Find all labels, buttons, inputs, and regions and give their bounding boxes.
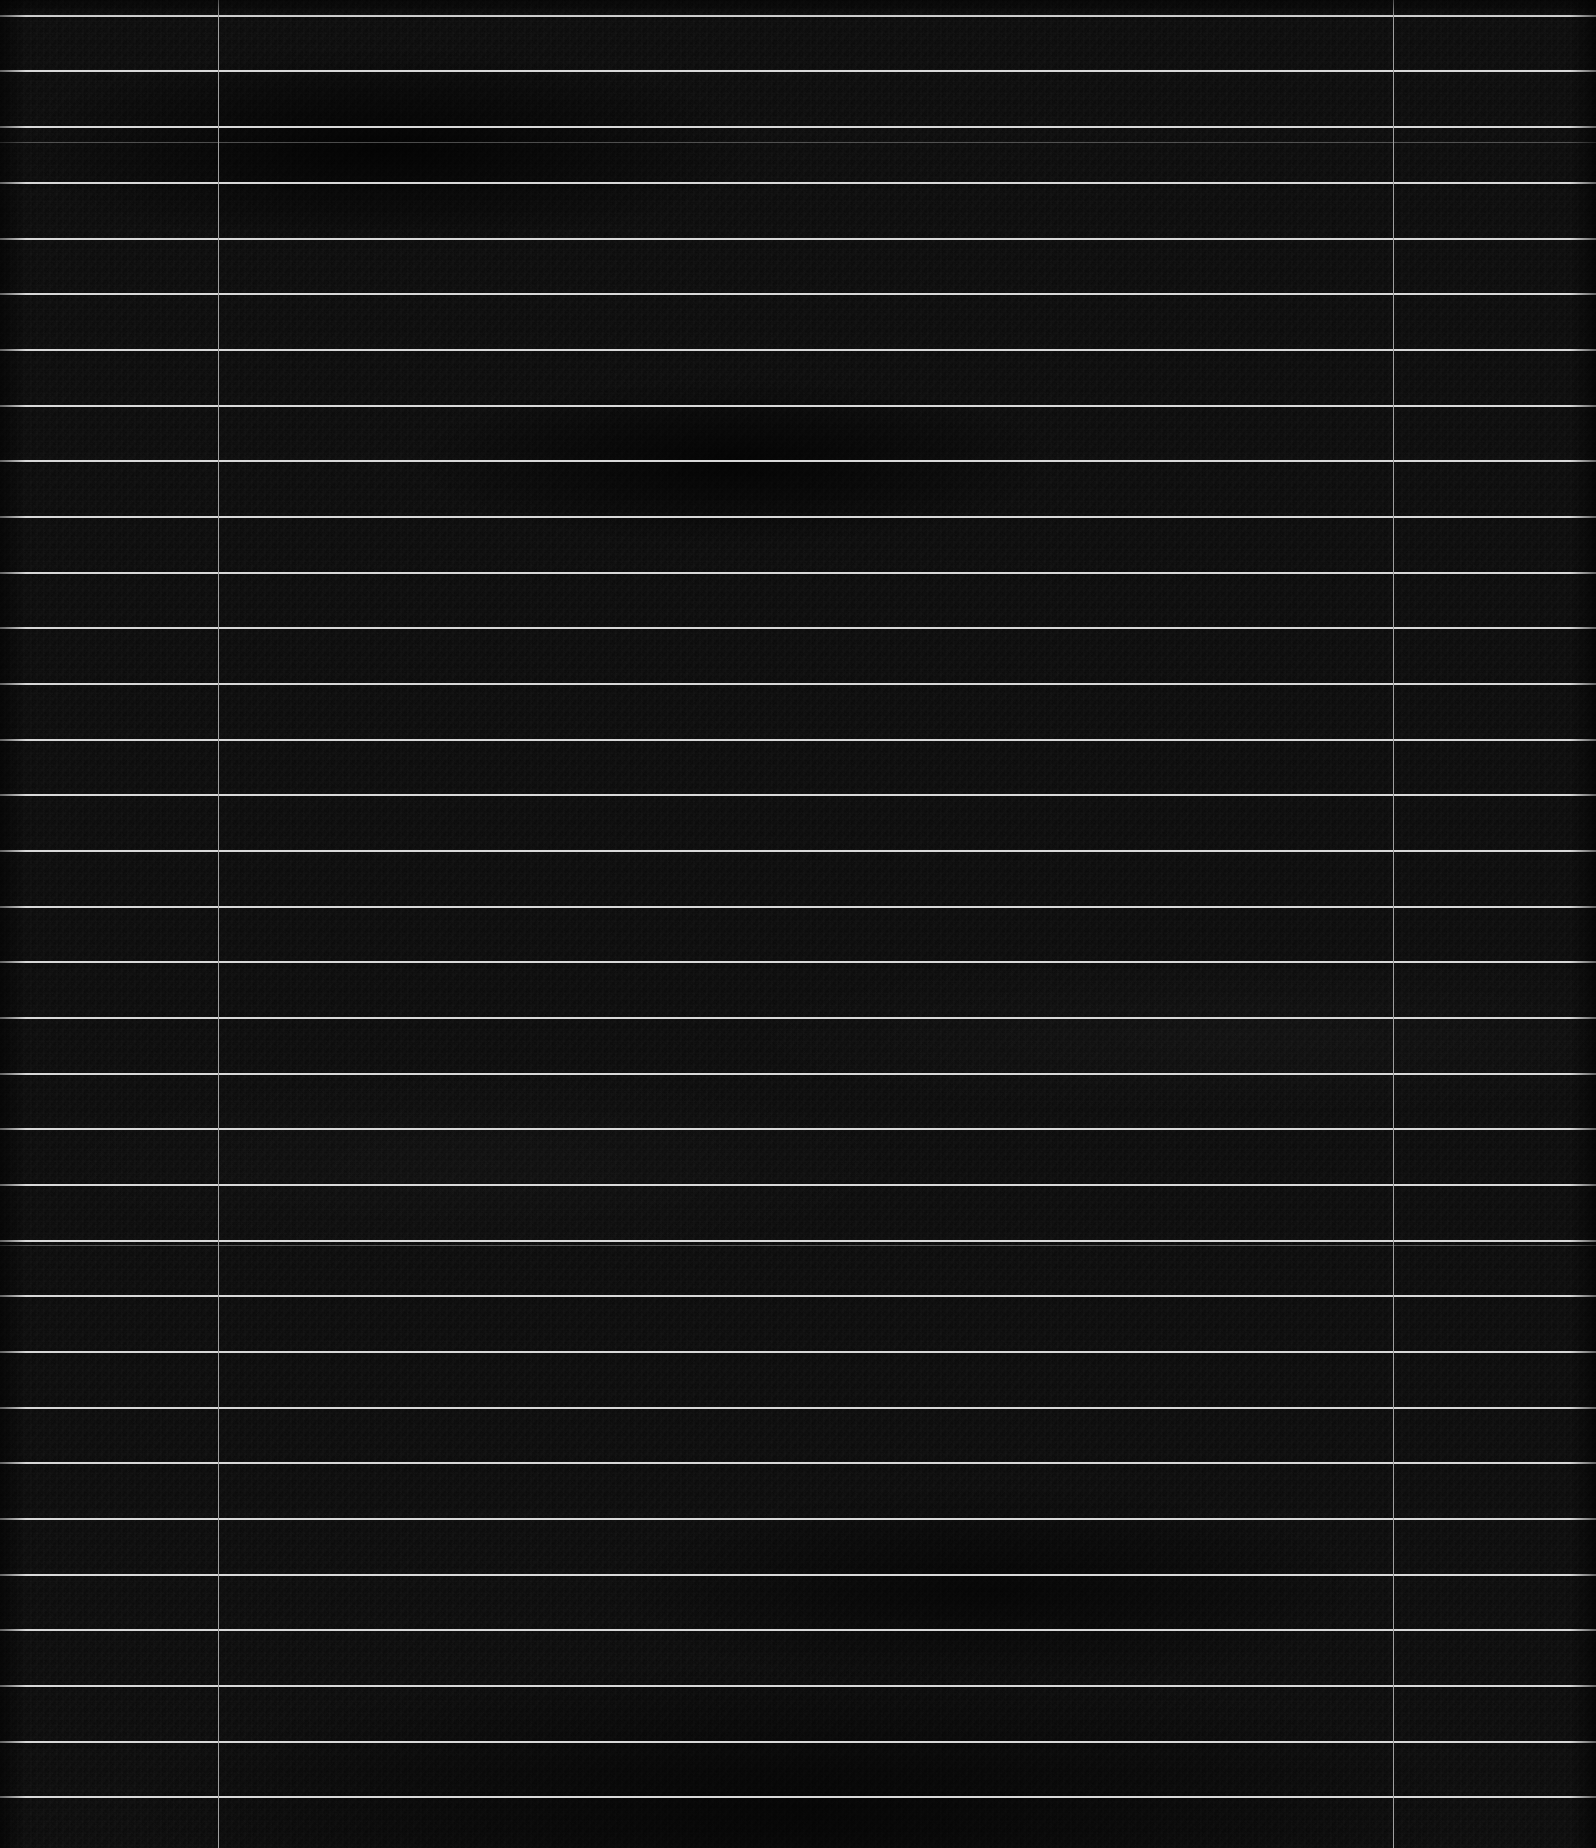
table-cell-column-center[interactable]	[219, 1687, 1393, 1741]
table-cell-column-left[interactable]	[0, 1297, 218, 1351]
table-row[interactable]	[0, 1353, 1596, 1407]
table-cell-column-center[interactable]	[219, 741, 1393, 794]
table-cell-column-right[interactable]	[1394, 1520, 1596, 1574]
table-cell-column-center[interactable]	[219, 351, 1393, 405]
table-cell-column-right[interactable]	[1394, 1631, 1596, 1685]
table-cell-column-right[interactable]	[1394, 1130, 1596, 1184]
table-cell-column-right[interactable]	[1394, 1019, 1596, 1073]
table-cell-column-left[interactable]	[0, 1186, 218, 1240]
table-cell-column-center[interactable]	[219, 1075, 1393, 1128]
table-cell-column-right[interactable]	[1394, 518, 1596, 572]
table-row[interactable]	[0, 908, 1596, 961]
table-cell-column-center[interactable]	[219, 796, 1393, 850]
table-cell-column-left[interactable]	[0, 462, 218, 516]
table-row[interactable]	[0, 1019, 1596, 1073]
table-cell-column-left[interactable]	[0, 963, 218, 1017]
table-row[interactable]	[0, 1409, 1596, 1462]
table-row[interactable]	[0, 741, 1596, 794]
table-cell-column-left[interactable]	[0, 72, 218, 126]
table-cell-column-right[interactable]	[1394, 407, 1596, 460]
table-row[interactable]	[0, 518, 1596, 572]
table-row[interactable]	[0, 184, 1596, 238]
table-cell-column-center[interactable]	[219, 295, 1393, 349]
table-cell-column-left[interactable]	[0, 184, 218, 238]
table-row[interactable]	[0, 1520, 1596, 1574]
table-cell-column-center[interactable]	[219, 1353, 1393, 1407]
table-cell-column-left[interactable]	[0, 574, 218, 627]
table-cell-column-right[interactable]	[1394, 685, 1596, 739]
table-cell-column-center[interactable]	[219, 17, 1393, 70]
table-cell-column-right[interactable]	[1394, 1409, 1596, 1462]
table-cell-column-left[interactable]	[0, 351, 218, 405]
table-cell-column-left[interactable]	[0, 1409, 218, 1462]
table-row[interactable]	[0, 128, 1596, 182]
table-cell-column-right[interactable]	[1394, 1576, 1596, 1629]
table-row[interactable]	[0, 1464, 1596, 1518]
table-cell-column-left[interactable]	[0, 1130, 218, 1184]
table-cell-column-center[interactable]	[219, 1464, 1393, 1518]
table-cell-column-center[interactable]	[219, 407, 1393, 460]
table-cell-column-center[interactable]	[219, 574, 1393, 627]
table-cell-column-right[interactable]	[1394, 796, 1596, 850]
table-cell-column-left[interactable]	[0, 796, 218, 850]
table-cell-column-right[interactable]	[1394, 72, 1596, 126]
table-row[interactable]	[0, 1743, 1596, 1796]
table-cell-column-left[interactable]	[0, 685, 218, 739]
table-cell-column-left[interactable]	[0, 908, 218, 961]
table-row[interactable]	[0, 17, 1596, 70]
table-cell-column-left[interactable]	[0, 1631, 218, 1685]
table-cell-column-right[interactable]	[1394, 1186, 1596, 1240]
table-row[interactable]	[0, 240, 1596, 293]
table-cell-column-center[interactable]	[219, 1130, 1393, 1184]
table-cell-column-center[interactable]	[219, 1743, 1393, 1796]
table-cell-column-left[interactable]	[0, 1464, 218, 1518]
table-cell-column-center[interactable]	[219, 72, 1393, 126]
table-row[interactable]	[0, 852, 1596, 906]
table-row[interactable]	[0, 407, 1596, 460]
table-row[interactable]	[0, 1075, 1596, 1128]
table-cell-column-center[interactable]	[219, 1186, 1393, 1240]
table-row[interactable]	[0, 351, 1596, 405]
table-cell-column-center[interactable]	[219, 240, 1393, 293]
table-cell-column-center[interactable]	[219, 1019, 1393, 1073]
table-cell-column-left[interactable]	[0, 407, 218, 460]
table-cell-column-left[interactable]	[0, 1019, 218, 1073]
table-cell-column-center[interactable]	[219, 1297, 1393, 1351]
table-cell-column-right[interactable]	[1394, 852, 1596, 906]
table-cell-column-left[interactable]	[0, 1353, 218, 1407]
table-cell-column-left[interactable]	[0, 852, 218, 906]
table-cell-column-center[interactable]	[219, 1242, 1393, 1295]
table-cell-column-center[interactable]	[219, 1576, 1393, 1629]
table-cell-column-center[interactable]	[219, 1520, 1393, 1574]
table-cell-column-left[interactable]	[0, 1576, 218, 1629]
table-cell-column-right[interactable]	[1394, 574, 1596, 627]
table-cell-column-right[interactable]	[1394, 1743, 1596, 1796]
table-cell-column-right[interactable]	[1394, 908, 1596, 961]
table-cell-column-right[interactable]	[1394, 963, 1596, 1017]
table-row[interactable]	[0, 1576, 1596, 1629]
table-cell-column-right[interactable]	[1394, 1075, 1596, 1128]
table-cell-column-right[interactable]	[1394, 1464, 1596, 1518]
table-cell-column-left[interactable]	[0, 1075, 218, 1128]
table-cell-column-right[interactable]	[1394, 128, 1596, 182]
table-cell-column-left[interactable]	[0, 295, 218, 349]
table-cell-column-center[interactable]	[219, 852, 1393, 906]
table-cell-column-center[interactable]	[219, 1409, 1393, 1462]
table-cell-column-center[interactable]	[219, 518, 1393, 572]
table-row[interactable]	[0, 685, 1596, 739]
table-cell-column-left[interactable]	[0, 1520, 218, 1574]
table-cell-column-right[interactable]	[1394, 1353, 1596, 1407]
table-cell-column-right[interactable]	[1394, 629, 1596, 683]
table-cell-column-center[interactable]	[219, 184, 1393, 238]
table-row[interactable]	[0, 1687, 1596, 1741]
table-row[interactable]	[0, 462, 1596, 516]
table-cell-column-left[interactable]	[0, 17, 218, 70]
table-cell-column-center[interactable]	[219, 462, 1393, 516]
table-cell-column-left[interactable]	[0, 1242, 218, 1295]
table-cell-column-right[interactable]	[1394, 240, 1596, 293]
table-row[interactable]	[0, 1130, 1596, 1184]
table-cell-column-right[interactable]	[1394, 1687, 1596, 1741]
table-cell-column-right[interactable]	[1394, 1297, 1596, 1351]
table-row[interactable]	[0, 1186, 1596, 1240]
table-row[interactable]	[0, 1297, 1596, 1351]
